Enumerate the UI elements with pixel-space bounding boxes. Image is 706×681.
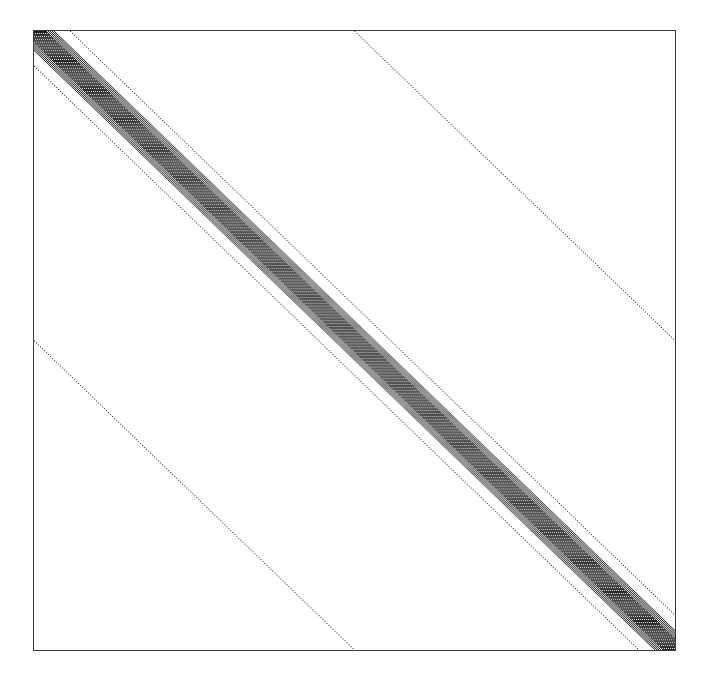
spy-plot-figure <box>0 0 706 681</box>
sparsity-pattern-canvas <box>34 31 675 650</box>
figure-title <box>0 0 1 1</box>
x-axis-label <box>0 0 1 1</box>
plot-axes-frame <box>33 30 676 651</box>
y-axis-label <box>0 0 1 1</box>
